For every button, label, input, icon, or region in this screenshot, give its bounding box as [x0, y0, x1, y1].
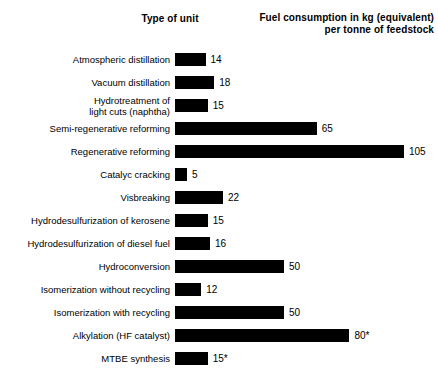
- bar-value-label: 5: [192, 169, 198, 180]
- bar-13: [175, 352, 208, 365]
- bar-11: [175, 306, 284, 319]
- row-label-line: Regenerative reforming: [71, 146, 170, 157]
- column-header-type-of-unit: Type of unit: [110, 13, 230, 25]
- row-label-line: Semi-regenerative reforming: [50, 123, 170, 134]
- bar-value-label: 65: [322, 123, 333, 134]
- bar-5: [175, 168, 187, 181]
- bar-12: [175, 329, 349, 342]
- bar-4: [175, 145, 404, 158]
- row-label-4: Regenerative reforming: [0, 140, 170, 163]
- bar-10: [175, 283, 201, 296]
- bar-area: 15: [175, 209, 224, 232]
- row-label-line: Atmospheric distillation: [73, 54, 170, 65]
- row-label-line: Hydrotreatment of: [94, 95, 170, 106]
- row-label-13: MTBE synthesis: [0, 347, 170, 370]
- row-label-line: light cuts (naphtha): [89, 106, 170, 117]
- chart-row: Catalyc cracking5: [0, 163, 438, 186]
- bar-1: [175, 76, 214, 89]
- bar-value-label: 18: [219, 77, 230, 88]
- bar-value-label: 105: [409, 146, 426, 157]
- bar-value-label: 15: [213, 215, 224, 226]
- bar-area: 50: [175, 301, 300, 324]
- bar-value-label: 22: [228, 192, 239, 203]
- row-label-line: Hydrodesulfurization of kerosene: [31, 215, 170, 226]
- bar-3: [175, 122, 317, 135]
- row-label-line: MTBE synthesis: [101, 353, 170, 364]
- bar-area: 16: [175, 232, 226, 255]
- row-label-line: Vacuum distillation: [91, 77, 170, 88]
- bar-value-label: 16: [215, 238, 226, 249]
- bar-value-label: 80*: [354, 330, 369, 341]
- row-label-line: Visbreaking: [121, 192, 170, 203]
- row-label-line: Alkylation (HF catalyst): [73, 330, 170, 341]
- row-label-line: Hydroconversion: [99, 261, 170, 272]
- row-label-line: Isomerization without recycling: [41, 284, 170, 295]
- chart-row: Visbreaking22: [0, 186, 438, 209]
- bar-area: 105: [175, 140, 426, 163]
- row-label-line: Isomerization with recycling: [54, 307, 170, 318]
- bar-value-label: 50: [289, 307, 300, 318]
- chart-row: Vacuum distillation18: [0, 71, 438, 94]
- column-header-fuel-consumption-line2: per tonne of feedstock: [218, 24, 434, 36]
- bar-area: 15: [175, 94, 224, 117]
- row-label-line: Catalyc cracking: [100, 169, 170, 180]
- bar-area: 15*: [175, 347, 228, 370]
- bar-value-label: 15: [213, 100, 224, 111]
- chart-header: Type of unit Fuel consumption in kg (equ…: [0, 10, 438, 44]
- fuel-consumption-bar-chart: Type of unit Fuel consumption in kg (equ…: [0, 0, 438, 371]
- chart-row: Isomerization without recycling12: [0, 278, 438, 301]
- row-label-3: Semi-regenerative reforming: [0, 117, 170, 140]
- chart-row: Semi-regenerative reforming65: [0, 117, 438, 140]
- row-label-11: Isomerization with recycling: [0, 301, 170, 324]
- row-label-1: Vacuum distillation: [0, 71, 170, 94]
- row-label-8: Hydrodesulfurization of diesel fuel: [0, 232, 170, 255]
- bar-area: 80*: [175, 324, 369, 347]
- row-label-line: Hydrodesulfurization of diesel fuel: [27, 238, 170, 249]
- chart-rows: Atmospheric distillation14Vacuum distill…: [0, 48, 438, 370]
- bar-9: [175, 260, 284, 273]
- chart-row: Alkylation (HF catalyst)80*: [0, 324, 438, 347]
- bar-6: [175, 191, 223, 204]
- chart-row: Hydrodesulfurization of kerosene15: [0, 209, 438, 232]
- column-header-fuel-consumption-line1: Fuel consumption in kg (equivalent): [218, 12, 434, 24]
- bar-area: 14: [175, 48, 222, 71]
- bar-area: 18: [175, 71, 230, 94]
- bar-area: 65: [175, 117, 333, 140]
- column-header-fuel-consumption: Fuel consumption in kg (equivalent) per …: [218, 12, 434, 36]
- row-label-2: Hydrotreatment oflight cuts (naphtha): [0, 94, 170, 117]
- bar-value-label: 50: [289, 261, 300, 272]
- bar-7: [175, 214, 208, 227]
- chart-row: Isomerization with recycling50: [0, 301, 438, 324]
- chart-row: Hydrotreatment oflight cuts (naphtha)15: [0, 94, 438, 117]
- bar-value-label: 14: [211, 54, 222, 65]
- chart-row: Atmospheric distillation14: [0, 48, 438, 71]
- row-label-6: Visbreaking: [0, 186, 170, 209]
- bar-area: 12: [175, 278, 217, 301]
- chart-row: MTBE synthesis15*: [0, 347, 438, 370]
- chart-row: Hydrodesulfurization of diesel fuel16: [0, 232, 438, 255]
- row-label-10: Isomerization without recycling: [0, 278, 170, 301]
- row-label-7: Hydrodesulfurization of kerosene: [0, 209, 170, 232]
- bar-8: [175, 237, 210, 250]
- bar-value-label: 15*: [213, 353, 228, 364]
- row-label-5: Catalyc cracking: [0, 163, 170, 186]
- chart-row: Hydroconversion50: [0, 255, 438, 278]
- row-label-0: Atmospheric distillation: [0, 48, 170, 71]
- row-label-12: Alkylation (HF catalyst): [0, 324, 170, 347]
- chart-row: Regenerative reforming105: [0, 140, 438, 163]
- bar-area: 50: [175, 255, 300, 278]
- bar-0: [175, 53, 206, 66]
- bar-area: 5: [175, 163, 198, 186]
- row-label-9: Hydroconversion: [0, 255, 170, 278]
- bar-2: [175, 99, 208, 112]
- bar-value-label: 12: [206, 284, 217, 295]
- bar-area: 22: [175, 186, 239, 209]
